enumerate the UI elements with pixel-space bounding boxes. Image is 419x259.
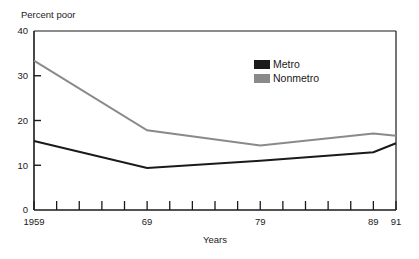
y-axis-tick-label: 20 (17, 115, 28, 126)
y-axis-title: Percent poor (21, 9, 75, 20)
line-chart: Percent poor 010203040 195969798991 Year… (0, 0, 419, 259)
y-axis-tick-label: 10 (17, 160, 28, 171)
chart-background (0, 0, 419, 259)
legend-label-metro: Metro (273, 58, 300, 70)
x-axis-title: Years (203, 234, 227, 245)
metro-swatch (254, 60, 270, 69)
x-axis-tick-label: 69 (142, 216, 153, 227)
x-axis-tick-label: 91 (391, 216, 402, 227)
y-axis-tick-label: 40 (17, 25, 28, 36)
x-axis-tick-label: 79 (255, 216, 266, 227)
x-axis-tick-label: 1959 (23, 216, 44, 227)
x-axis-tick-label: 89 (368, 216, 379, 227)
y-axis-tick-label: 0 (23, 204, 28, 215)
legend-label-nonmetro: Nonmetro (273, 72, 319, 84)
nonmetro-swatch (254, 74, 270, 83)
chart-container: Percent poor 010203040 195969798991 Year… (0, 0, 419, 259)
y-axis-tick-label: 30 (17, 70, 28, 81)
